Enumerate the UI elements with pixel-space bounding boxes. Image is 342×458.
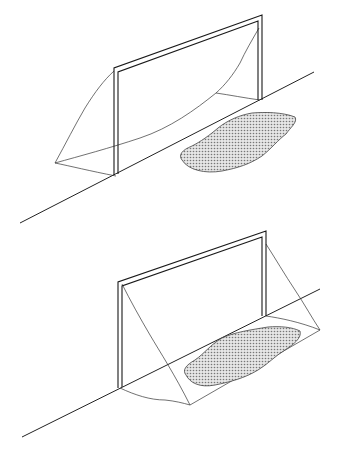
shaded-patch [180, 112, 295, 171]
ground-line [22, 289, 320, 437]
diagram-canvas: Two line drawings of a soccer goal on a … [0, 0, 342, 458]
top-panel [20, 15, 314, 223]
shaded-patch [184, 327, 300, 386]
bottom-panel [22, 231, 320, 437]
goal-diagrams [0, 0, 342, 458]
